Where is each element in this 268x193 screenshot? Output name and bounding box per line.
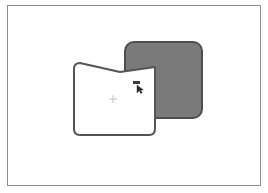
anchor-crosshair-hit[interactable] (109, 95, 117, 103)
drawing-canvas[interactable]: Vector shape drawing Rounded rectangle N… (0, 0, 268, 193)
mouse-pointer-hit (136, 85, 145, 94)
